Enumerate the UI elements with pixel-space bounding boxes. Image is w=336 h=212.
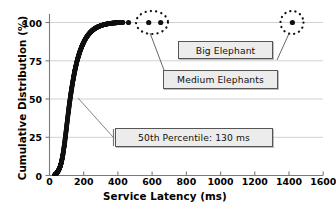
annotation-medium-elephants: Medium Elephants [163, 70, 278, 89]
x-tick-1600: 1600 [310, 176, 336, 187]
x-tick-200: 200 [74, 176, 94, 187]
x-tick-1200: 1200 [242, 176, 268, 187]
x-axis-title: Service Latency (ms) [0, 190, 330, 202]
annotation-big-elephant: Big Elephant [178, 41, 273, 59]
y-tick-marks [46, 23, 50, 176]
x-tick-marks [50, 172, 324, 176]
x-tick-800: 800 [177, 176, 197, 187]
x-tick-1000: 1000 [208, 176, 234, 187]
y-axis-title: Cumulative Distribution (%) [16, 8, 28, 188]
p50-leader-line [78, 98, 114, 146]
axis-lines [49, 14, 323, 176]
x-tick-1400: 1400 [276, 176, 302, 187]
x-tick-600: 600 [142, 176, 162, 187]
big-elephant-highlight [277, 11, 304, 60]
annotation-50th-percentile: 50th Percentile: 130 ms [115, 128, 273, 147]
x-tick-400: 400 [108, 176, 128, 187]
x-tick-0: 0 [46, 176, 53, 187]
